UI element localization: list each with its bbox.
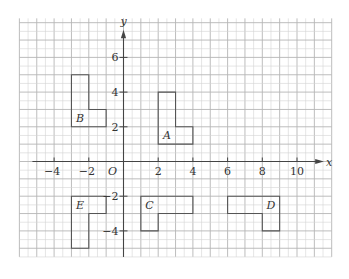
y-tick-label: 6 <box>112 51 119 64</box>
x-tick-label: 4 <box>189 165 196 178</box>
y-tick-label: −2 <box>102 190 118 203</box>
y-axis-label: y <box>119 15 127 28</box>
x-tick-label: −4 <box>44 165 60 178</box>
shape-label-d: D <box>266 199 276 212</box>
shape-label-b: B <box>75 112 84 125</box>
y-axis-arrow-icon <box>121 30 126 39</box>
x-tick-label: −2 <box>79 165 95 178</box>
y-tick-label: −4 <box>102 225 118 238</box>
y-tick-label: 2 <box>112 121 119 134</box>
shape-label-e: E <box>75 199 84 212</box>
shape-label-a: A <box>162 129 171 142</box>
x-axis-arrow-icon <box>315 159 324 164</box>
x-tick-label: 2 <box>155 165 162 178</box>
y-tick-label: 4 <box>112 86 119 99</box>
x-tick-label: 8 <box>259 165 266 178</box>
x-axis-label: x <box>326 156 333 169</box>
x-tick-label: 10 <box>290 165 304 178</box>
origin-label: O <box>108 165 117 178</box>
shape-label-c: C <box>145 199 154 212</box>
coordinate-grid-diagram: −4−2246810642−2−4OxyABCDE <box>0 0 349 279</box>
x-tick-label: 6 <box>224 165 231 178</box>
grid-lines <box>19 18 331 257</box>
